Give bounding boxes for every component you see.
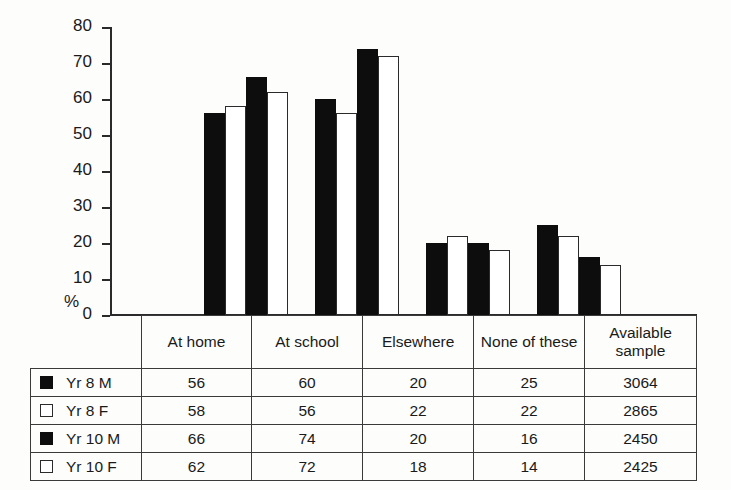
y-tick-30: 30 (102, 207, 110, 209)
bar-group-none-of-these (537, 27, 621, 315)
table-cell-r3-c2: 18 (363, 453, 474, 481)
y-tick-label-10: 10 (73, 268, 92, 288)
hollow-square-icon (40, 404, 53, 417)
bar-yr-8-f-at-school (336, 113, 357, 315)
y-tick-label-30: 30 (73, 196, 92, 216)
bar-yr-10-f-at-home (267, 92, 288, 315)
y-tick-20: 20 (102, 243, 110, 245)
bar-group-elsewhere (426, 27, 510, 315)
table-cell-r2-c3: 16 (474, 425, 585, 453)
table-header-none-of-these: None of these (474, 316, 585, 369)
table-cell-r0-c1: 60 (252, 369, 363, 397)
hollow-square-icon (40, 460, 53, 473)
table-cell-r2-c4: 2450 (584, 425, 696, 453)
table-cell-r2-c1: 74 (252, 425, 363, 453)
legend-cell-yr-10-m: Yr 10 M (31, 425, 142, 453)
y-tick-label-20: 20 (73, 232, 92, 252)
y-axis-unit-label: % (64, 292, 79, 312)
legend-cell-yr-10-f: Yr 10 F (31, 453, 142, 481)
table-cell-r1-c3: 22 (474, 397, 585, 425)
y-tick-60: 60 (102, 99, 110, 101)
bar-yr-8-f-none-of-these (558, 236, 579, 315)
legend-label: Yr 10 F (66, 458, 117, 476)
table-cell-r3-c0: 62 (141, 453, 252, 481)
bar-yr-10-m-none-of-these (579, 257, 600, 315)
table-cell-r3-c3: 14 (474, 453, 585, 481)
bar-yr-10-f-elsewhere (489, 250, 510, 315)
table-row: Yr 10 F627218142425 (31, 453, 697, 481)
y-tick-80: 80 (102, 27, 110, 29)
bar-yr-8-m-none-of-these (537, 225, 558, 315)
table-cell-r1-c2: 22 (363, 397, 474, 425)
table-header-at-school: At school (252, 316, 363, 369)
y-tick-10: 10 (102, 279, 110, 281)
table-cell-r1-c0: 58 (141, 397, 252, 425)
chart-figure: % 80706050403020100 At home At school El… (0, 0, 731, 490)
filled-square-icon (40, 432, 53, 445)
y-tick-label-70: 70 (73, 52, 92, 72)
bar-yr-10-m-at-school (357, 49, 378, 315)
y-tick-40: 40 (102, 171, 110, 173)
y-tick-label-40: 40 (73, 160, 92, 180)
legend-label: Yr 8 F (66, 402, 108, 420)
bar-yr-8-f-elsewhere (447, 236, 468, 315)
table-cell-r0-c0: 56 (141, 369, 252, 397)
filled-square-icon (40, 376, 53, 389)
legend-label: Yr 10 M (66, 430, 120, 448)
table-row: Yr 8 F585622222865 (31, 397, 697, 425)
bar-yr-10-m-at-home (246, 77, 267, 315)
table-cell-r0-c3: 25 (474, 369, 585, 397)
table-header-row: At home At school Elsewhere None of thes… (31, 316, 697, 369)
table-header-at-home: At home (141, 316, 252, 369)
table-row: Yr 8 M566020253064 (31, 369, 697, 397)
table-cell-r1-c4: 2865 (584, 397, 696, 425)
table-header-available-sample: Available sample (584, 316, 696, 369)
table-cell-r3-c4: 2425 (584, 453, 696, 481)
y-tick-label-80: 80 (73, 16, 92, 36)
plot-area: 80706050403020100 (110, 27, 697, 315)
legend-label: Yr 8 M (66, 374, 112, 392)
table-cell-r2-c2: 20 (363, 425, 474, 453)
legend-cell-yr-8-m: Yr 8 M (31, 369, 142, 397)
table-header-elsewhere: Elsewhere (363, 316, 474, 369)
y-tick-label-60: 60 (73, 88, 92, 108)
bar-yr-10-f-at-school (378, 56, 399, 315)
y-tick-label-50: 50 (73, 124, 92, 144)
legend-header-spacer (31, 316, 142, 369)
table-cell-r0-c4: 3064 (584, 369, 696, 397)
table-row: Yr 10 M667420162450 (31, 425, 697, 453)
bar-yr-8-m-at-school (315, 99, 336, 315)
bar-yr-10-m-elsewhere (468, 243, 489, 315)
y-tick-70: 70 (102, 63, 110, 65)
bar-group-at-home (204, 27, 288, 315)
legend-cell-yr-8-f: Yr 8 F (31, 397, 142, 425)
table-cell-r0-c2: 20 (363, 369, 474, 397)
y-axis-line (110, 27, 112, 315)
bar-yr-8-m-elsewhere (426, 243, 447, 315)
table-body: Yr 8 M566020253064Yr 8 F585622222865Yr 1… (31, 369, 697, 481)
bar-group-at-school (315, 27, 399, 315)
bar-yr-10-f-none-of-these (600, 265, 621, 315)
table-cell-r3-c1: 72 (252, 453, 363, 481)
table-cell-r2-c0: 66 (141, 425, 252, 453)
table-cell-r1-c1: 56 (252, 397, 363, 425)
bar-yr-8-f-at-home (225, 106, 246, 315)
bar-yr-8-m-at-home (204, 113, 225, 315)
data-table: At home At school Elsewhere None of thes… (30, 315, 697, 481)
y-tick-50: 50 (102, 135, 110, 137)
